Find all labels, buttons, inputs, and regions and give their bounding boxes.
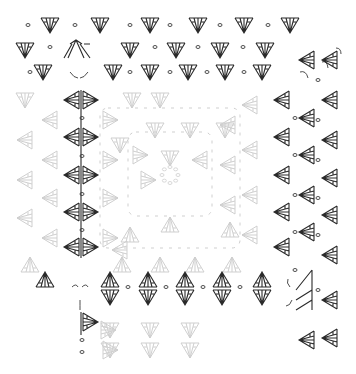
fan-down-icon (176, 290, 194, 305)
fan-right-icon (141, 171, 156, 189)
fan-up-icon (213, 272, 231, 287)
fan-left-icon (42, 229, 57, 247)
fan-up-icon (113, 257, 131, 272)
fan-left-icon (17, 131, 32, 149)
fan-up-icon (253, 272, 271, 287)
fan-up-icon (121, 227, 139, 242)
fan-down-icon (16, 43, 34, 58)
fan-down-icon (139, 290, 157, 305)
fan-up-icon (223, 257, 241, 272)
chain-stitch-icon (293, 154, 297, 157)
fan-down-icon (181, 323, 199, 338)
chain-stitch-icon (196, 46, 200, 49)
chain-stitch-icon (316, 234, 320, 237)
chain-stitch-icon (128, 71, 132, 74)
fan-left-icon (242, 186, 257, 204)
fan-down-icon (181, 123, 199, 138)
fan-left-icon (242, 96, 257, 114)
chain-stitch-icon (316, 159, 320, 162)
fan-left-icon (322, 291, 337, 309)
fan-down-icon (146, 123, 164, 138)
fan-up-icon (101, 272, 119, 287)
fan-down-icon (123, 93, 141, 108)
fan-left-icon (299, 186, 314, 204)
chain-stitch-icon (26, 24, 30, 27)
fan-down-icon (213, 290, 231, 305)
fan-left-icon (220, 116, 235, 134)
fan-down-icon (104, 65, 122, 80)
chain-stitch-icon (293, 194, 297, 197)
chain-stitch-icon (241, 46, 245, 49)
chain-stitch-icon (293, 117, 297, 120)
fan-up-icon (161, 217, 179, 232)
fan-left-icon (64, 128, 79, 146)
center-ring-chain-icon (162, 179, 166, 182)
fan-down-icon (111, 138, 129, 153)
fan-down-icon (167, 43, 185, 58)
center-ring-chain-icon (162, 168, 166, 171)
fan-down-icon (253, 65, 271, 80)
fan-down-icon (41, 18, 59, 33)
chain-stitch-icon (48, 46, 52, 49)
fan-left-icon (64, 238, 79, 256)
fan-left-icon (274, 166, 289, 184)
fan-up-icon (221, 222, 239, 237)
fan-left-icon (242, 141, 257, 159)
fan-down-icon (34, 65, 52, 80)
chain-stitch-icon (80, 339, 84, 342)
chain-stitch-icon (128, 24, 132, 27)
chain-stitch-icon (316, 197, 320, 200)
chain-stitch-icon (316, 289, 320, 292)
fan-left-icon (112, 241, 127, 259)
chain-stitch-icon (201, 286, 205, 289)
active-rows (16, 18, 341, 354)
fan-right-icon (83, 203, 98, 221)
chain-stitch-icon (168, 24, 172, 27)
fan-down-icon (216, 65, 234, 80)
fan-left-icon (299, 51, 314, 69)
fan-down-icon (141, 18, 159, 33)
chain-stitch-icon (266, 24, 270, 27)
fan-left-icon (322, 329, 337, 347)
center-ring-chain-icon (176, 174, 180, 177)
fan-up-icon (36, 272, 54, 287)
fan-down-icon (151, 93, 169, 108)
fan-down-icon (161, 151, 179, 166)
fan-left-icon (322, 169, 337, 187)
fan-left-icon (322, 246, 337, 264)
chain-stitch-icon (73, 24, 77, 27)
fan-left-icon (274, 203, 289, 221)
cluster-icon (64, 40, 90, 58)
chain-stitch-icon (164, 286, 168, 289)
corner-chain-icon (70, 48, 341, 310)
chain-stitch-icon (80, 351, 84, 354)
fan-left-icon (274, 238, 289, 256)
fan-right-icon (103, 229, 118, 247)
fan-up-icon (186, 257, 204, 272)
chain-stitch-icon (168, 71, 172, 74)
center-ring-chain-icon (174, 179, 178, 182)
fan-right-icon (103, 111, 118, 129)
center-ring-chain-icon (160, 174, 164, 177)
fan-down-icon (281, 18, 299, 33)
fan-left-icon (322, 131, 337, 149)
fan-up-icon (151, 257, 169, 272)
chain-stitch-icon (316, 119, 320, 122)
crochet-chart (0, 0, 356, 374)
fan-down-icon (101, 290, 119, 305)
fan-left-icon (322, 51, 337, 69)
fan-right-icon (133, 146, 148, 164)
fan-up-icon (176, 272, 194, 287)
chain-stitch-icon (242, 71, 246, 74)
center-ring-chain-icon (168, 182, 172, 185)
fan-down-icon (253, 290, 271, 305)
center-ring-chain-icon (174, 168, 178, 171)
chain-stitch-icon (153, 46, 157, 49)
chain-stitch-icon (293, 231, 297, 234)
fan-left-icon (274, 128, 289, 146)
fan-right-icon (83, 91, 98, 109)
fan-right-icon (103, 189, 118, 207)
fan-down-icon (179, 65, 197, 80)
fan-left-icon (242, 226, 257, 244)
chain-stitch-icon (205, 71, 209, 74)
